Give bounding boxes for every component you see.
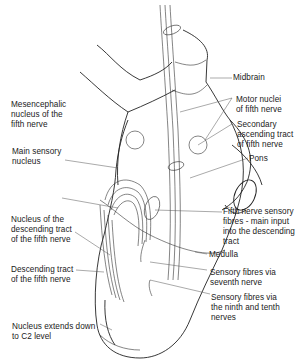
label-nucleus-descending-tract: Nucleus of the descending tract of the f… — [11, 215, 72, 245]
label-sensory-fibres-seventh: Sensory fibres via seventh nerve — [210, 268, 276, 288]
trigeminal-nuclei-diagram: Midbrain Motor nuclei of fifth nerve Sec… — [0, 0, 300, 361]
label-nucleus-extends-c2: Nucleus extends down to C2 level — [12, 322, 95, 342]
label-fifth-nerve-sensory-fibres: Fifth nerve sensory fibres - main input … — [223, 207, 295, 247]
label-main-sensory-nucleus: Main sensory nucleus — [12, 147, 61, 167]
label-sensory-fibres-ninth-tenth: Sensory fibres via the ninth and tenth n… — [211, 293, 280, 323]
label-motor-nuclei: Motor nuclei of fifth nerve — [236, 95, 282, 115]
label-mesencephalic-nucleus: Mesencephalic nucleus of the fifth nerve — [11, 100, 66, 130]
label-midbrain: Midbrain — [233, 73, 265, 83]
label-secondary-ascending-tract: Secondary ascending tract of fifth nerve — [237, 120, 293, 150]
label-pons: Pons — [249, 154, 268, 164]
label-descending-tract: Descending tract of the fifth nerve — [11, 265, 73, 285]
label-medulla: Medulla — [209, 250, 238, 260]
